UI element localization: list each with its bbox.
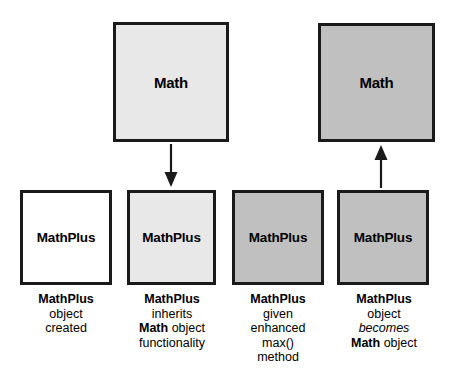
caption-4-line-2: object [329,307,439,322]
mathplus-box-1: MathPlus [20,190,112,285]
caption-2-line-3: Math object [118,321,226,336]
math-box-2-label: Math [359,75,393,90]
math-box-1: Math [113,22,229,142]
caption-1-line-2: object [12,307,120,322]
mathplus-box-4: MathPlus [337,190,429,285]
mathplus-box-2: MathPlus [127,190,216,285]
caption-3-line-2: given [224,307,332,322]
caption-3-line-4: max() [224,336,332,351]
caption-mathplus-inherits: MathPlus inherits Math object functional… [118,292,226,350]
caption-2-line-3-normal: object [168,321,205,335]
math-box-2: Math [318,23,435,142]
caption-4-line-1: MathPlus [329,292,439,307]
caption-2-line-4: functionality [118,336,226,351]
mathplus-box-3: MathPlus [232,190,324,285]
caption-4-line-4: Math object [329,336,439,351]
mathplus-box-3-label: MathPlus [249,231,307,245]
mathplus-box-2-label: MathPlus [142,231,200,245]
math-box-1-label: Math [154,75,188,90]
caption-2-line-3-bold: Math [139,321,168,335]
caption-3-line-5: method [224,350,332,365]
caption-1-line-1: MathPlus [12,292,120,307]
caption-1-line-3: created [12,321,120,336]
caption-4-line-4-normal: object [380,336,417,350]
caption-mathplus-enhanced-max: MathPlus given enhanced max() method [224,292,332,365]
caption-mathplus-created: MathPlus object created [12,292,120,336]
caption-3-line-1: MathPlus [224,292,332,307]
caption-mathplus-becomes-math: MathPlus object becomes Math object [329,292,439,350]
inheritance-diagram: Math Math MathPlus MathPlus MathPlus Mat… [0,0,458,377]
arrow-up-icon [370,144,392,188]
caption-2-line-1: MathPlus [118,292,226,307]
caption-2-line-2: inherits [118,307,226,322]
mathplus-box-4-label: MathPlus [354,231,412,245]
mathplus-box-1-label: MathPlus [37,231,95,245]
arrow-down-icon [160,144,182,188]
caption-3-line-3: enhanced [224,321,332,336]
caption-4-line-3: becomes [329,321,439,336]
caption-4-line-4-bold: Math [351,336,380,350]
